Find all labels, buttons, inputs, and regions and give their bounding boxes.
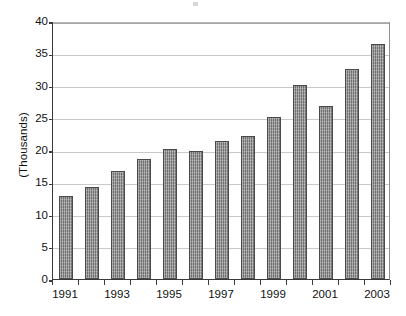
bar	[189, 151, 203, 279]
bar	[371, 44, 385, 279]
y-axis-tick-label: 15	[35, 178, 48, 190]
y-axis-tick-label: 25	[35, 113, 48, 125]
x-axis-tick-mark	[104, 280, 105, 285]
x-axis-tick-mark	[78, 280, 79, 285]
y-axis-tick-label: 40	[35, 16, 48, 28]
x-axis-tick-mark	[390, 280, 391, 285]
x-axis-tick-mark	[312, 280, 313, 285]
bar	[163, 149, 177, 279]
bars-layer	[53, 23, 389, 279]
y-axis-tick-label: 5	[42, 242, 48, 254]
x-axis-tick-mark	[364, 280, 365, 285]
y-axis-tick-labels: 0510152025303540	[26, 22, 48, 280]
x-axis-tick-label: 1993	[104, 288, 130, 301]
y-axis-tick-label: 20	[35, 145, 48, 157]
x-axis-tick-mark	[286, 280, 287, 285]
x-axis-tick-label: 2003	[364, 288, 390, 301]
x-axis-tick-label: 2001	[312, 288, 338, 301]
x-axis-tick-mark	[52, 280, 53, 285]
x-axis-tick-mark	[182, 280, 183, 285]
plot-area	[52, 22, 390, 280]
y-axis-tick-label: 10	[35, 210, 48, 222]
x-axis-tick-labels: 1991199319951997199920012003	[52, 288, 390, 308]
bar	[241, 136, 255, 279]
bar	[59, 196, 73, 279]
x-axis-tick-mark	[130, 280, 131, 285]
bar	[267, 117, 281, 279]
y-axis-tick-label: 0	[42, 274, 48, 286]
bar	[215, 141, 229, 279]
y-axis-tick-label: 35	[35, 49, 48, 61]
bar	[111, 171, 125, 279]
y-axis-tick-label: 30	[35, 81, 48, 93]
x-axis-tick-marks	[52, 280, 390, 286]
x-axis-tick-label: 1999	[260, 288, 286, 301]
bar	[345, 69, 359, 279]
x-axis-tick-mark	[208, 280, 209, 285]
bar	[85, 187, 99, 279]
x-axis-tick-label: 1991	[52, 288, 78, 301]
x-axis-tick-label: 1997	[208, 288, 234, 301]
x-axis-tick-mark	[338, 280, 339, 285]
bar-chart: (Thousands) 0510152025303540 19911993199…	[0, 0, 406, 316]
bar	[319, 106, 333, 279]
bar	[137, 159, 151, 279]
scan-artifact-speck	[193, 2, 198, 6]
x-axis-tick-mark	[156, 280, 157, 285]
bar	[293, 85, 307, 279]
x-axis-tick-mark	[234, 280, 235, 285]
x-axis-tick-label: 1995	[156, 288, 182, 301]
x-axis-tick-mark	[260, 280, 261, 285]
